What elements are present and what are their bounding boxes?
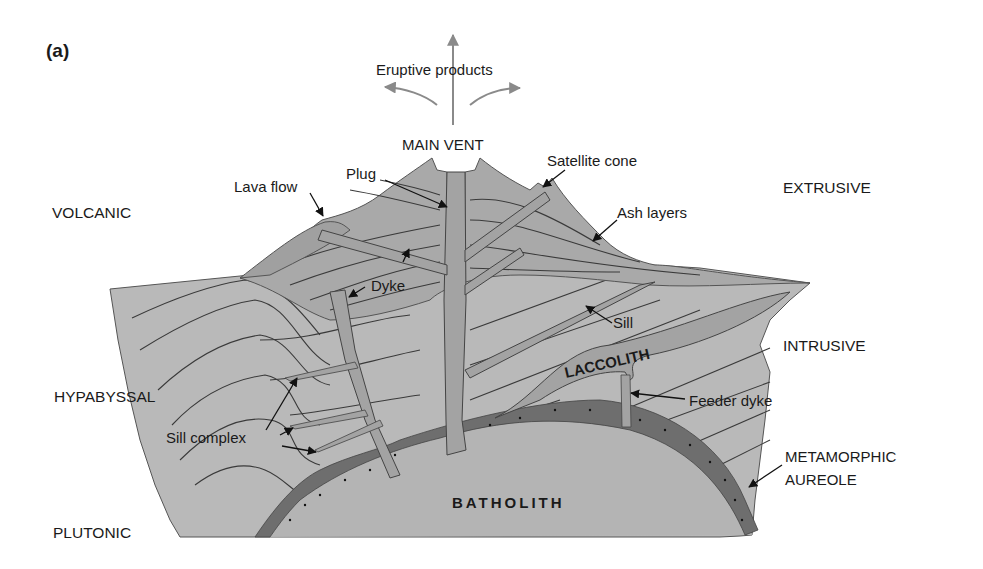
igneous-bodies-diagram: (a) Eruptive products MAIN VENT Satellit…	[0, 0, 983, 569]
sill-complex-label: Sill complex	[166, 429, 247, 446]
panel-label: (a)	[46, 40, 69, 61]
plug-label: Plug	[346, 165, 376, 182]
zone-intrusive: INTRUSIVE	[783, 337, 866, 354]
zone-plutonic: PLUTONIC	[53, 524, 131, 541]
eruptive-products-label: Eruptive products	[376, 61, 493, 78]
satellite-cone-label: Satellite cone	[547, 152, 637, 169]
batholith-label: BATHOLITH	[452, 494, 565, 511]
ash-layers-label: Ash layers	[617, 204, 687, 221]
zone-volcanic: VOLCANIC	[52, 204, 131, 221]
feeder-dyke-label: Feeder dyke	[689, 392, 772, 409]
metamorphic-label: METAMORPHIC	[785, 448, 897, 465]
main-vent-label: MAIN VENT	[402, 136, 484, 153]
zone-hypabyssal: HYPABYSSAL	[54, 388, 156, 405]
dyke-label: Dyke	[371, 277, 405, 294]
plug	[444, 172, 466, 455]
sill-label: Sill	[613, 314, 633, 331]
lava-flow-label: Lava flow	[234, 178, 298, 195]
zone-extrusive: EXTRUSIVE	[783, 179, 871, 196]
eruptive-arrows	[385, 35, 520, 125]
feeder-dyke	[621, 375, 631, 427]
aureole-label: AUREOLE	[785, 471, 857, 488]
